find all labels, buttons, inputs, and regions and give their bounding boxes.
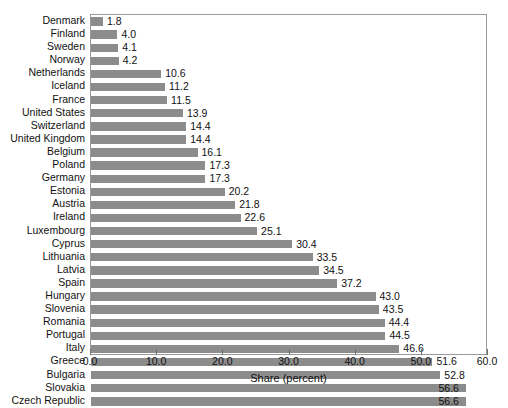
bar	[91, 266, 319, 274]
bar-value-label: 10.6	[165, 68, 185, 79]
bar-value-label: 56.6	[439, 396, 459, 407]
category-label: Portugal	[0, 328, 88, 341]
x-tick-label: 0.0	[83, 355, 98, 367]
bar-value-label: 4.2	[123, 55, 138, 66]
bar	[91, 227, 257, 235]
category-label: United States	[0, 106, 88, 119]
bar-row: 30.4	[91, 238, 486, 251]
category-label: Luxembourg	[0, 224, 88, 237]
bar-row: 25.1	[91, 225, 486, 238]
bar	[91, 44, 118, 52]
bar	[91, 57, 119, 65]
category-label: Austria	[0, 197, 88, 210]
category-label: Ireland	[0, 210, 88, 223]
bar-row: 21.8	[91, 198, 486, 211]
x-tick-label: 60.0	[477, 355, 497, 367]
bar-row: 20.2	[91, 185, 486, 198]
category-label: Spain	[0, 276, 88, 289]
bar	[91, 305, 379, 313]
category-label: Lithuania	[0, 250, 88, 263]
bar	[91, 240, 292, 248]
bar-value-label: 22.6	[245, 212, 265, 223]
bar-value-label: 14.4	[190, 134, 210, 145]
bar	[91, 319, 385, 327]
category-label: Finland	[0, 27, 88, 40]
bar	[91, 83, 165, 91]
bar	[91, 345, 399, 353]
bar	[91, 188, 225, 196]
category-label: Poland	[0, 158, 88, 171]
bar-value-label: 17.3	[209, 173, 229, 184]
category-label: United Kingdom	[0, 132, 88, 145]
category-label: Belgium	[0, 145, 88, 158]
bar	[91, 214, 241, 222]
bar	[91, 135, 186, 143]
x-tick-label: 40.0	[344, 355, 364, 367]
bar	[91, 30, 117, 38]
bar-value-label: 13.9	[187, 108, 207, 119]
bar-value-label: 20.2	[229, 186, 249, 197]
category-label: Iceland	[0, 79, 88, 92]
bar-row: 34.5	[91, 264, 486, 277]
bar	[91, 175, 205, 183]
bar-value-label: 4.0	[121, 29, 136, 40]
category-label: Czech Republic	[0, 394, 88, 407]
category-label: Switzerland	[0, 119, 88, 132]
bar-value-label: 33.5	[317, 252, 337, 263]
category-label: Norway	[0, 53, 88, 66]
bar	[91, 332, 385, 340]
bar-value-label: 37.2	[341, 278, 361, 289]
category-label: Denmark	[0, 14, 88, 27]
category-label: Sweden	[0, 40, 88, 53]
bar	[91, 397, 466, 405]
category-label: Germany	[0, 171, 88, 184]
bar-value-label: 16.1	[202, 147, 222, 158]
bar-row: 44.4	[91, 316, 486, 329]
bar-value-label: 43.5	[383, 304, 403, 315]
plot-area: 1.84.04.14.210.611.211.513.914.414.416.1…	[90, 14, 487, 355]
bar-row: 4.1	[91, 41, 486, 54]
bar-row: 22.6	[91, 211, 486, 224]
bar-row: 56.6	[91, 395, 486, 408]
bar-row: 16.1	[91, 146, 486, 159]
bar-value-label: 34.5	[323, 265, 343, 276]
bar-value-label: 1.8	[107, 16, 122, 27]
category-label: Hungary	[0, 289, 88, 302]
bar-value-label: 43.0	[380, 291, 400, 302]
category-axis: DenmarkFinlandSwedenNorwayNetherlandsIce…	[0, 14, 88, 407]
bars-container: 1.84.04.14.210.611.211.513.914.414.416.1…	[91, 15, 486, 354]
bar-row: 37.2	[91, 277, 486, 290]
bar-row: 17.3	[91, 159, 486, 172]
bar	[91, 253, 313, 261]
bar-row: 10.6	[91, 67, 486, 80]
bar-row: 13.9	[91, 107, 486, 120]
bar-value-label: 44.5	[389, 330, 409, 341]
category-label: Slovakia	[0, 381, 88, 394]
bar-value-label: 25.1	[261, 226, 281, 237]
category-label: Romania	[0, 315, 88, 328]
bar-value-label: 14.4	[190, 121, 210, 132]
bar	[91, 161, 205, 169]
x-tick-label: 50.0	[411, 355, 431, 367]
bar	[91, 122, 186, 130]
bar-value-label: 44.4	[389, 317, 409, 328]
category-label: Slovenia	[0, 302, 88, 315]
x-tick-label: 20.0	[212, 355, 232, 367]
bar-row: 17.3	[91, 172, 486, 185]
bar-row: 11.5	[91, 94, 486, 107]
bar-row: 44.5	[91, 329, 486, 342]
bar-value-label: 17.3	[209, 160, 229, 171]
bar-row: 14.4	[91, 120, 486, 133]
category-label: Netherlands	[0, 66, 88, 79]
bar-row: 4.0	[91, 28, 486, 41]
bar-value-label: 11.5	[171, 95, 191, 106]
x-axis-label: Share (percent)	[90, 372, 487, 384]
bar	[91, 148, 198, 156]
bar	[91, 17, 103, 25]
bar	[91, 279, 337, 287]
bar-row: 11.2	[91, 80, 486, 93]
bar-row: 33.5	[91, 251, 486, 264]
bar-row: 14.4	[91, 133, 486, 146]
category-label: Latvia	[0, 263, 88, 276]
bar-value-label: 21.8	[239, 199, 259, 210]
